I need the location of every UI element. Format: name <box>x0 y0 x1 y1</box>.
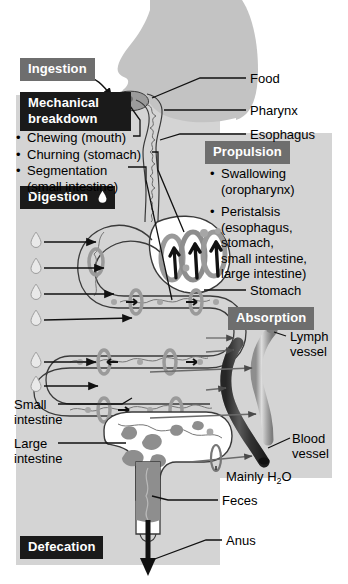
label-lymph-vessel: Lymph vessel <box>290 330 344 359</box>
mechanical-label-line2: breakdown <box>28 111 98 126</box>
list-item-text: Segmentation <box>27 163 107 178</box>
label-esophagus: Esophagus <box>250 128 315 143</box>
label-small-intestine-line1: Small <box>14 397 47 412</box>
list-item-text-cont: (small intestine) <box>27 179 176 195</box>
list-item-text-cont: (oropharynx) <box>221 182 332 198</box>
label-blood-line1: Blood <box>292 431 325 446</box>
water-label-pre: Mainly H <box>226 469 277 484</box>
list-item-text-cont: small intestine, <box>221 251 332 267</box>
label-feces: Feces <box>222 494 257 509</box>
label-lymph-line1: Lymph <box>290 329 329 344</box>
label-lymph-line2: vessel <box>290 344 327 359</box>
list-item: • Swallowing (oropharynx) <box>210 166 332 197</box>
list-item-text: Churning (stomach) <box>27 147 141 162</box>
section-header-absorption: Absorption <box>228 307 314 330</box>
bullet-dot: • <box>16 163 21 179</box>
label-blood-vessel: Blood vessel <box>292 432 344 461</box>
label-large-intestine-line1: Large <box>14 436 47 451</box>
bullet-dot: • <box>210 166 215 182</box>
list-item-text-cont: large intestine) <box>221 266 332 282</box>
label-blood-line2: vessel <box>292 446 329 461</box>
digestive-system-figure: Ingestion Mechanical breakdown Digestion… <box>0 0 348 584</box>
section-header-ingestion: Ingestion <box>20 58 95 81</box>
water-label-post: O <box>282 469 292 484</box>
bullet-dot: • <box>16 147 21 163</box>
list-item: • Segmentation (small intestine) <box>16 163 176 194</box>
list-item-text-cont: stomach, <box>221 235 332 251</box>
vessels-illustration <box>226 327 278 465</box>
label-large-intestine-line2: intestine <box>14 451 62 466</box>
large-intestine-illustration <box>104 412 232 500</box>
section-header-mechanical-breakdown: Mechanical breakdown <box>20 92 131 131</box>
label-small-intestine-line2: intestine <box>14 412 62 427</box>
list-item-text-cont: (esophagus, <box>221 220 332 236</box>
label-large-intestine: Large intestine <box>14 437 84 466</box>
section-header-defecation: Defecation <box>20 536 103 559</box>
list-item-text: Peristalsis <box>221 204 280 219</box>
label-anus: Anus <box>226 534 256 549</box>
label-food: Food <box>250 72 280 87</box>
bullet-dot: • <box>16 130 21 146</box>
list-item: • Chewing (mouth) <box>16 130 176 146</box>
label-pharynx: Pharynx <box>250 104 298 119</box>
label-mainly-water: Mainly H2O <box>226 470 292 489</box>
list-item-text: Chewing (mouth) <box>27 130 126 145</box>
bullet-dot: • <box>210 204 215 220</box>
mechanical-label-line1: Mechanical <box>28 95 99 110</box>
label-stomach: Stomach <box>250 284 301 299</box>
section-header-propulsion: Propulsion <box>205 141 290 164</box>
label-small-intestine: Small intestine <box>14 398 84 427</box>
list-item: • Churning (stomach) <box>16 147 176 163</box>
list-item-text: Swallowing <box>221 166 286 181</box>
mechanical-breakdown-list: • Chewing (mouth) • Churning (stomach) •… <box>16 130 176 195</box>
propulsion-list: • Swallowing (oropharynx) • Peristalsis … <box>210 166 332 289</box>
list-item: • Peristalsis (esophagus, stomach, small… <box>210 204 332 282</box>
